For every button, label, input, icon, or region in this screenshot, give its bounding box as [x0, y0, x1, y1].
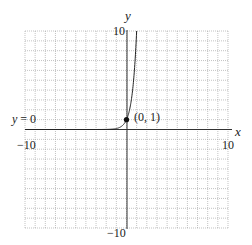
x-max-label: 10	[222, 138, 234, 152]
asymptote-eq: = 0	[17, 112, 36, 126]
exponential-graph: y 10 x 10 −10 −10 (0, 1) y = 0	[0, 0, 252, 245]
point-0-1	[124, 117, 129, 122]
y-max-label: 10	[113, 24, 125, 38]
point-label: (0, 1)	[134, 110, 160, 124]
y-axis-label: y	[123, 8, 131, 23]
asymptote-label: y = 0	[11, 112, 36, 126]
x-axis-label: x	[234, 124, 241, 139]
x-min-label: −10	[17, 138, 36, 152]
y-min-label: −10	[107, 226, 126, 240]
